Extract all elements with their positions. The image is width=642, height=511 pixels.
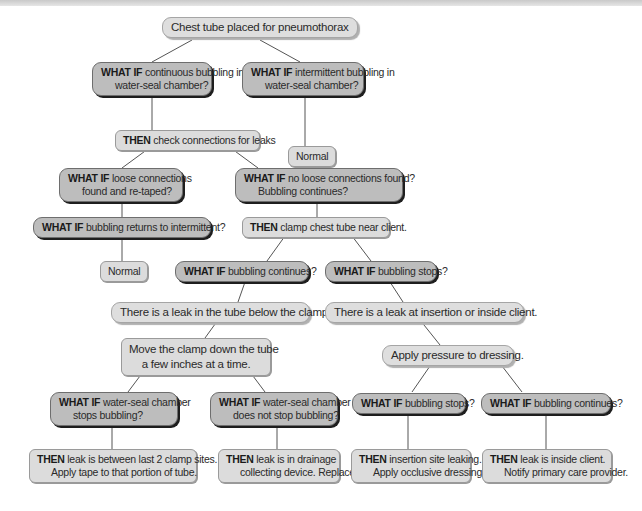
- node-whatif-returns-intermittent: WHAT IF bubbling returns to intermittent…: [33, 217, 211, 238]
- node-then-check-connections: THEN check connections for leaks: [115, 130, 260, 151]
- whatif-label: WHAT IF: [101, 66, 142, 78]
- then-label: THEN: [250, 221, 278, 233]
- node-leak-below-clamp: There is a leak in the tube below the cl…: [111, 302, 310, 323]
- whatif-label: WHAT IF: [251, 66, 292, 78]
- whatif-label: WHAT IF: [219, 396, 260, 408]
- node-whatif-bubbling-continues-1: WHAT IF bubbling continues?: [175, 261, 309, 282]
- node-whatif-no-loose: WHAT IF no loose connections found? Bubb…: [235, 168, 403, 202]
- then-label: THEN: [359, 453, 387, 465]
- whatif-label: WHAT IF: [42, 221, 83, 233]
- node-whatif-loose-found: WHAT IF loose connections found and re-t…: [59, 168, 183, 202]
- node-whatif-bubbling-stops-2: WHAT IF bubbling stops?: [352, 393, 466, 414]
- node-normal-1: Normal: [288, 146, 336, 167]
- node-then-clamp-tube: THEN clamp chest tube near client.: [242, 217, 390, 238]
- then-label: THEN: [226, 453, 254, 465]
- node-whatif-bubbling-stops-1: WHAT IF bubbling stops?: [325, 261, 437, 282]
- node-apply-pressure: Apply pressure to dressing.: [382, 345, 514, 366]
- whatif-label: WHAT IF: [184, 265, 225, 277]
- node-move-clamp: Move the clamp down the tube a few inche…: [121, 338, 271, 376]
- node-then-inside-client: THEN leak is inside client. Notify prima…: [482, 449, 612, 483]
- node-whatif-intermittent: WHAT IF intermittent bubbling in water-s…: [242, 62, 364, 96]
- node-then-insertion-leaking: THEN insertion site leaking. Apply occlu…: [351, 449, 471, 483]
- node-whatif-continuous: WHAT IF continuous bubbling in water-sea…: [92, 62, 212, 96]
- whatif-label: WHAT IF: [68, 172, 109, 184]
- node-normal-2: Normal: [100, 261, 148, 282]
- whatif-label: WHAT IF: [59, 396, 100, 408]
- node-root: Chest tube placed for pneumothorax: [162, 17, 358, 38]
- node-whatif-not-stop-bubbling: WHAT IF water-seal chamber does not stop…: [210, 392, 338, 426]
- node-leak-insertion: There is a leak at insertion or inside c…: [325, 302, 524, 323]
- node-whatif-bubbling-continues-2: WHAT IF bubbling continues?: [481, 393, 611, 414]
- node-then-leak-between-clamps: THEN leak is between last 2 clamp sites.…: [29, 449, 197, 483]
- then-label: THEN: [123, 134, 151, 146]
- then-label: THEN: [490, 453, 518, 465]
- whatif-label: WHAT IF: [334, 265, 375, 277]
- node-root-text: Chest tube placed for pneumothorax: [171, 21, 349, 33]
- then-label: THEN: [37, 453, 65, 465]
- whatif-label: WHAT IF: [244, 172, 285, 184]
- whatif-label: WHAT IF: [490, 397, 531, 409]
- node-whatif-stops-bubbling: WHAT IF water-seal chamber stops bubblin…: [50, 392, 178, 426]
- whatif-label: WHAT IF: [361, 397, 402, 409]
- node-then-leak-drainage: THEN leak is in drainage collecting devi…: [218, 449, 340, 483]
